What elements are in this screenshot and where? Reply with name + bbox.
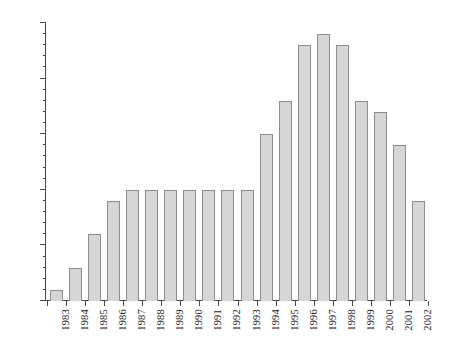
x-axis-label: 1998 [347, 309, 358, 331]
x-axis-label: 1991 [213, 309, 224, 331]
plot-area [46, 22, 442, 301]
x-axis-label: 2001 [404, 309, 415, 331]
bar [126, 190, 139, 301]
bar [221, 190, 234, 301]
x-axis-label: 1989 [175, 309, 186, 331]
bar-chart: 0510152025 19831984198519861987198819891… [0, 0, 450, 353]
x-axis-label: 1983 [61, 309, 72, 331]
x-axis-label: 1992 [232, 309, 243, 331]
bar [88, 234, 101, 301]
x-axis-label: 1997 [328, 309, 339, 331]
x-axis-tick [314, 301, 315, 306]
x-axis-tick [238, 301, 239, 306]
bar [50, 290, 63, 301]
bar [412, 201, 425, 301]
x-axis-tick [180, 301, 181, 306]
x-axis-label: 1985 [99, 309, 110, 331]
x-axis-tick [409, 301, 410, 306]
x-axis-tick [104, 301, 105, 306]
x-axis-tick [199, 301, 200, 306]
x-axis-label: 1988 [156, 309, 167, 331]
bar [241, 190, 254, 301]
x-axis-tick [123, 301, 124, 306]
x-axis-tick [218, 301, 219, 306]
x-axis-tick [352, 301, 353, 306]
bar [279, 101, 292, 301]
x-axis-label: 1999 [366, 309, 377, 331]
bar [393, 145, 406, 301]
x-axis-label: 1994 [271, 309, 282, 331]
x-axis-tick [142, 301, 143, 306]
bar [69, 268, 82, 301]
x-axis-tick [276, 301, 277, 306]
x-axis-tick [371, 301, 372, 306]
x-axis-tick [66, 301, 67, 306]
x-axis-label: 1984 [80, 309, 91, 331]
bar [164, 190, 177, 301]
x-axis-tick [390, 301, 391, 306]
x-axis-tick [333, 301, 334, 306]
x-axis-tick [257, 301, 258, 306]
bar [107, 201, 120, 301]
x-axis-label: 1993 [252, 309, 263, 331]
x-axis-label: 1987 [137, 309, 148, 331]
x-axis-label: 1986 [118, 309, 129, 331]
bar [336, 45, 349, 301]
x-axis-tick [428, 301, 429, 306]
x-axis-label: 1995 [290, 309, 301, 331]
x-axis-tick [295, 301, 296, 306]
y-axis: 0510152025 [0, 0, 46, 353]
x-axis-tick [161, 301, 162, 306]
x-axis-tick [85, 301, 86, 306]
x-axis-label: 2002 [423, 309, 434, 331]
bar [317, 34, 330, 301]
bar [298, 45, 311, 301]
bar [202, 190, 215, 301]
bar [260, 134, 273, 301]
bar [145, 190, 158, 301]
x-axis-label: 1996 [309, 309, 320, 331]
x-axis-label: 1990 [194, 309, 205, 331]
x-axis-tick [47, 301, 48, 306]
bar [183, 190, 196, 301]
x-axis-label: 2000 [385, 309, 396, 331]
bar [355, 101, 368, 301]
bar [374, 112, 387, 301]
